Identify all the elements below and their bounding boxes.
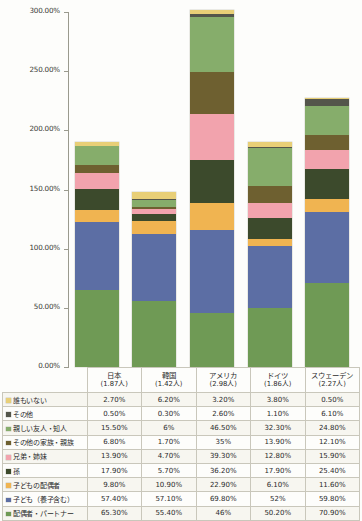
legend-label-text: 孫 bbox=[13, 468, 20, 476]
bar-segment bbox=[190, 203, 234, 230]
table-cell-value: 35% bbox=[196, 435, 251, 449]
bar-segment bbox=[248, 246, 292, 308]
table-cell-value: 6.10% bbox=[251, 478, 306, 492]
bar-segment bbox=[75, 173, 119, 189]
stacked-bar[interactable] bbox=[305, 98, 349, 367]
bar-segment bbox=[132, 214, 176, 221]
table-cell-value: 57.10% bbox=[142, 492, 197, 506]
column-header-name: ドイツ bbox=[251, 371, 305, 381]
stacked-bar[interactable] bbox=[132, 192, 176, 367]
column-header: 韓国 (1.42人) bbox=[142, 368, 197, 393]
column-header: アメリカ (2.98人) bbox=[196, 368, 251, 393]
column-header-sub: (2.27人) bbox=[306, 380, 360, 390]
bar-segment bbox=[305, 199, 349, 213]
bar-segment bbox=[305, 169, 349, 199]
table-cell-value: 25.40% bbox=[305, 463, 360, 477]
stacked-bar[interactable] bbox=[75, 142, 119, 367]
table-cell-value: 1.70% bbox=[142, 435, 197, 449]
legend-swatch-icon bbox=[6, 498, 11, 503]
table-corner-cell bbox=[3, 368, 88, 393]
table-row: 孫17.90%5.70%36.20%17.90%25.40% bbox=[3, 463, 360, 477]
legend-row-label: その他の家族・親族 bbox=[3, 435, 88, 449]
table-cell-value: 5.70% bbox=[142, 463, 197, 477]
table-cell-value: 46.50% bbox=[196, 421, 251, 435]
table-cell-value: 70.90% bbox=[305, 506, 360, 520]
table-cell-value: 59.80% bbox=[305, 492, 360, 506]
table-cell-value: 3.80% bbox=[251, 393, 306, 407]
table-row: その他0.50%0.30%2.60%1.10%6.10% bbox=[3, 407, 360, 421]
bar-slot bbox=[298, 12, 356, 367]
bar-segment bbox=[190, 230, 234, 313]
legend-label-text: 親しい友人・知人 bbox=[13, 425, 67, 433]
column-header-sub: (1.86人) bbox=[251, 380, 305, 390]
bar-segment bbox=[75, 165, 119, 173]
y-axis-tick-label: 200.00% bbox=[29, 124, 60, 133]
bar-segment bbox=[75, 189, 119, 210]
stacked-bar[interactable] bbox=[248, 142, 292, 367]
table-cell-value: 69.80% bbox=[196, 492, 251, 506]
bar-segment bbox=[305, 99, 349, 106]
legend-row-label: その他 bbox=[3, 407, 88, 421]
table-cell-value: 13.90% bbox=[251, 435, 306, 449]
table-cell-value: 6% bbox=[142, 421, 197, 435]
data-table: 日本 (1.87人) 韓国 (1.42人) アメリカ (2.98人) ドイツ (… bbox=[2, 367, 360, 521]
table-cell-value: 4.70% bbox=[142, 449, 197, 463]
y-axis-tick-label: 250.00% bbox=[29, 65, 60, 74]
table-cell-value: 13.90% bbox=[87, 449, 142, 463]
column-header: 日本 (1.87人) bbox=[87, 368, 142, 393]
column-header: スウェーデン (2.27人) bbox=[305, 368, 360, 393]
table-cell-value: 22.90% bbox=[196, 478, 251, 492]
bar-segment bbox=[132, 192, 176, 199]
table-cell-value: 10.90% bbox=[142, 478, 197, 492]
legend-label-text: 配偶者・パートナー bbox=[13, 510, 73, 518]
bar-slot bbox=[68, 12, 126, 367]
table-cell-value: 12.80% bbox=[251, 449, 306, 463]
bar-segment bbox=[190, 72, 234, 113]
legend-swatch-icon bbox=[6, 512, 11, 517]
bar-segment bbox=[190, 17, 234, 72]
bar-slot bbox=[126, 12, 184, 367]
table-cell-value: 11.60% bbox=[305, 478, 360, 492]
bar-segment bbox=[132, 200, 176, 207]
legend-swatch-icon bbox=[6, 483, 11, 488]
column-header-name: 韓国 bbox=[142, 371, 196, 381]
table-cell-value: 2.60% bbox=[196, 407, 251, 421]
legend-label-text: その他 bbox=[13, 411, 33, 419]
table-cell-value: 2.70% bbox=[87, 393, 142, 407]
table-cell-value: 46% bbox=[196, 506, 251, 520]
legend-label-text: 子ども（養子含む） bbox=[13, 496, 73, 504]
table-cell-value: 55.40% bbox=[142, 506, 197, 520]
column-header-sub: (1.87人) bbox=[88, 380, 142, 390]
column-header-name: スウェーデン bbox=[306, 371, 360, 381]
y-axis-tick-label: 300.00% bbox=[29, 6, 60, 15]
table-cell-value: 6.20% bbox=[142, 393, 197, 407]
table-cell-value: 3.20% bbox=[196, 393, 251, 407]
data-table-wrapper: 日本 (1.87人) 韓国 (1.42人) アメリカ (2.98人) ドイツ (… bbox=[2, 367, 360, 521]
bar-segment bbox=[305, 283, 349, 367]
legend-label-text: 誰もいない bbox=[13, 397, 47, 405]
table-cell-value: 39.30% bbox=[196, 449, 251, 463]
legend-swatch-icon bbox=[6, 398, 11, 403]
bar-segment bbox=[75, 146, 119, 164]
bar-segment bbox=[248, 186, 292, 202]
bar-segment bbox=[190, 313, 234, 367]
bar-segment bbox=[248, 148, 292, 186]
legend-row-label: 配偶者・パートナー bbox=[3, 506, 88, 520]
table-row: 子ども（養子含む）57.40%57.10%69.80%52%59.80% bbox=[3, 492, 360, 506]
legend-label-text: その他の家族・親族 bbox=[13, 439, 73, 447]
legend-swatch-icon bbox=[6, 427, 11, 432]
y-axis-tick-label: 100.00% bbox=[29, 243, 60, 252]
table-row: 誰もいない2.70%6.20%3.20%3.80%0.50% bbox=[3, 393, 360, 407]
table-cell-value: 52% bbox=[251, 492, 306, 506]
bar-slot bbox=[241, 12, 299, 367]
table-cell-value: 17.90% bbox=[87, 463, 142, 477]
legend-swatch-icon bbox=[6, 455, 11, 460]
table-cell-value: 17.90% bbox=[251, 463, 306, 477]
table-cell-value: 57.40% bbox=[87, 492, 142, 506]
bar-segment bbox=[75, 290, 119, 367]
bar-segment bbox=[305, 106, 349, 135]
table-cell-value: 0.50% bbox=[87, 407, 142, 421]
stacked-bar[interactable] bbox=[190, 10, 234, 367]
bar-segment bbox=[248, 203, 292, 218]
